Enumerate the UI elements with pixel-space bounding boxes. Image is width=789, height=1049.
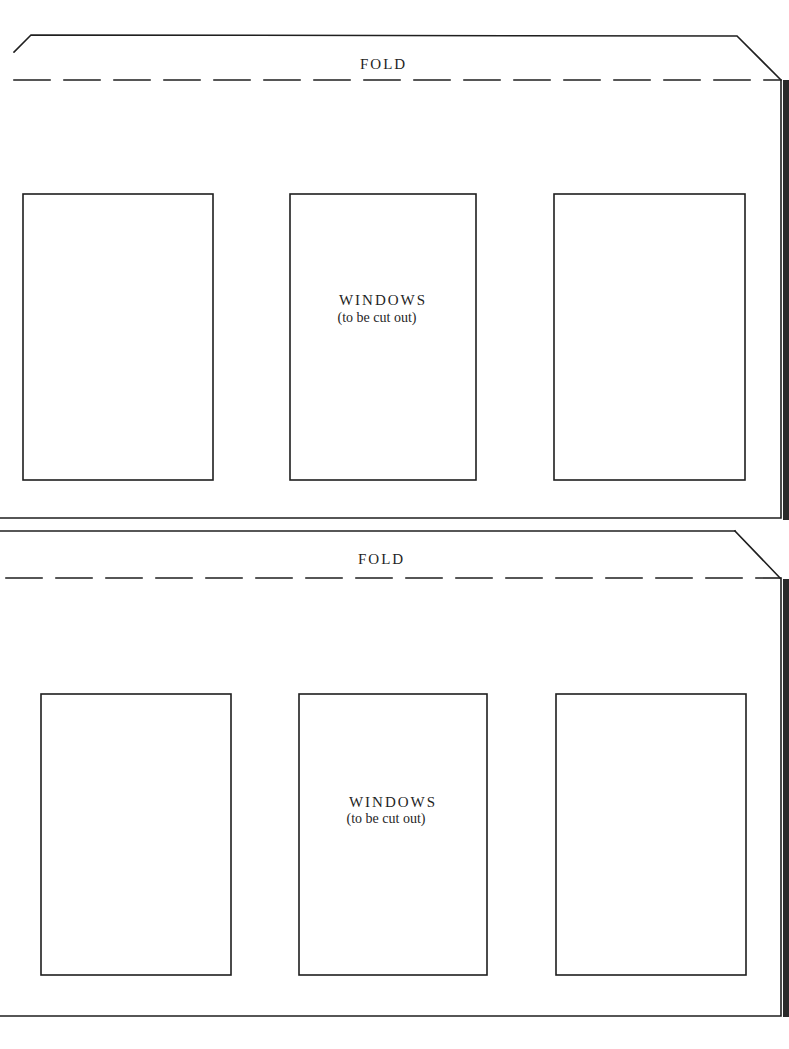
template-outline [0,0,789,1049]
windows-label: WINDOWS [299,794,487,811]
scan-edge-shadow [783,579,789,1017]
panel-2-window-right [556,694,746,975]
cutout-template-page: FOLD WINDOWS (to be cut out) FOLD WINDOW… [0,0,789,1049]
panel-2-outline [0,531,781,1016]
panel-1-window-left [23,194,213,480]
panel-2-window-left [41,694,231,975]
windows-sublabel: (to be cut out) [284,310,470,326]
panel-1-window-center [290,194,476,480]
windows-label: WINDOWS [290,292,476,309]
scan-edge-shadow [783,80,789,520]
fold-label: FOLD [352,551,411,568]
panel-1-outline [0,35,781,518]
windows-sublabel: (to be cut out) [292,811,480,827]
panel-2-window-center [299,694,487,975]
fold-label: FOLD [354,56,413,73]
panel-1-window-right [554,194,745,480]
